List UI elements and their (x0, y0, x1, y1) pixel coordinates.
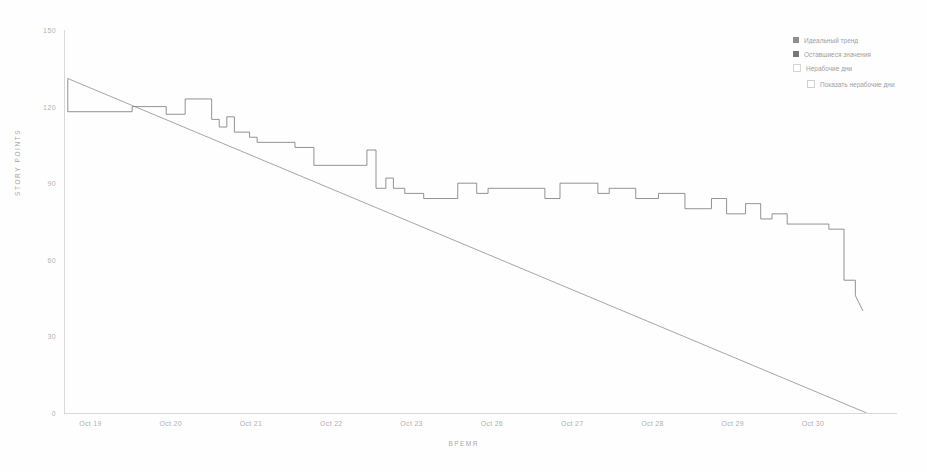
show-nonworking-days-checkbox[interactable]: Показать нерабочие дни (807, 77, 921, 91)
legend-label-guideline: Идеальный тренд (804, 37, 858, 44)
checkbox-label: Показать нерабочие дни (820, 81, 895, 88)
x-tick-label: Oct 19 (79, 420, 101, 427)
chart-legend: Идеальный тренд Оставшиеся значения Нера… (793, 33, 921, 91)
legend-label-remaining: Оставшиеся значения (804, 51, 871, 58)
checkbox-icon[interactable] (807, 80, 815, 88)
plot-area: 1501209060300 Oct 19Oct 20Oct 21Oct 22Oc… (64, 30, 897, 413)
x-tick-label: Oct 26 (481, 420, 503, 427)
y-tick-label: 120 (43, 103, 56, 110)
x-tick-label: Oct 27 (561, 420, 583, 427)
y-tick-label: 0 (52, 410, 56, 417)
legend-item-remaining[interactable]: Оставшиеся значения (793, 47, 921, 61)
legend-swatch-guideline (793, 37, 799, 43)
y-axis-title: STORY POINTS (14, 129, 21, 196)
legend-swatch-nonworking (793, 64, 801, 72)
y-tick-label: 150 (43, 27, 56, 34)
x-tick-label: Oct 23 (400, 420, 422, 427)
legend-swatch-remaining (793, 51, 799, 57)
x-tick-label: Oct 30 (802, 420, 824, 427)
legend-item-guideline[interactable]: Идеальный тренд (793, 33, 921, 47)
burndown-chart: STORY POINTS 1501209060300 Oct 19Oct 20O… (0, 0, 927, 472)
y-tick-label: 30 (47, 333, 56, 340)
x-tick-label: Oct 28 (641, 420, 663, 427)
x-tick-label: Oct 29 (721, 420, 743, 427)
series-guideline (68, 79, 867, 413)
y-axis-line (64, 30, 65, 413)
y-tick-label: 60 (47, 256, 56, 263)
chart-series-layer (64, 30, 897, 413)
x-tick-label: Oct 22 (320, 420, 342, 427)
x-axis-line (64, 413, 897, 414)
x-tick-label: Oct 20 (160, 420, 182, 427)
y-tick-label: 90 (47, 180, 56, 187)
x-axis-title: ВРЕМЯ (0, 440, 927, 447)
legend-item-nonworking[interactable]: Нерабочие дни (793, 61, 921, 75)
legend-label-nonworking: Нерабочие дни (806, 65, 852, 72)
series-step (68, 79, 863, 311)
x-tick-label: Oct 21 (240, 420, 262, 427)
